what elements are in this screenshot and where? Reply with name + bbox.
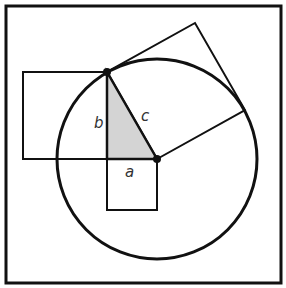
pythagoras-diagram: b c a xyxy=(0,0,286,288)
top-point xyxy=(103,68,111,76)
center-point xyxy=(153,155,161,163)
diagram-svg: b c a xyxy=(0,0,286,288)
label-b: b xyxy=(94,114,104,132)
label-a: a xyxy=(125,163,134,181)
label-c: c xyxy=(141,107,150,125)
